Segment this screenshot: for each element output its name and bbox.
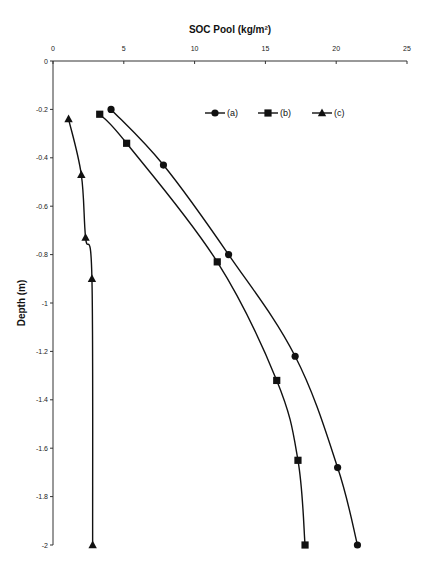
x-tick-label: 5	[122, 45, 126, 52]
data-point-square	[273, 377, 280, 384]
series-square	[96, 111, 309, 549]
data-point-circle	[292, 353, 299, 360]
data-point-circle	[354, 541, 361, 548]
x-tick-label: 25	[403, 45, 411, 52]
data-point-triangle	[88, 541, 96, 549]
series-line	[111, 109, 357, 545]
data-point-triangle	[81, 233, 89, 241]
y-axis-title: Depth (m)	[16, 280, 27, 327]
data-point-circle	[107, 106, 114, 113]
legend-label: (c)	[334, 108, 345, 118]
data-point-circle	[334, 464, 341, 471]
x-axis-title: SOC Pool (kg/m²)	[189, 24, 271, 35]
data-point-square	[214, 258, 221, 265]
data-point-square	[96, 111, 103, 118]
y-tick-label: -1.6	[36, 445, 48, 452]
data-point-triangle	[64, 115, 72, 123]
legend-item: (c)	[312, 108, 345, 118]
data-point-circle	[160, 161, 167, 168]
legend-marker-circle	[211, 109, 218, 116]
y-tick-label: -1.8	[36, 493, 48, 500]
data-point-square	[123, 140, 130, 147]
y-tick-label: -0.8	[36, 251, 48, 258]
x-tick-label: 15	[262, 45, 270, 52]
y-tick-label: -2	[42, 542, 48, 549]
y-ticks: 0-0.2-0.4-0.6-0.8-1-1.2-1.4-1.6-1.8-2	[36, 58, 53, 549]
legend-label: (b)	[280, 108, 291, 118]
data-point-circle	[225, 251, 232, 258]
data-point-square	[294, 457, 301, 464]
legend: (a)(b)(c)	[205, 108, 345, 118]
x-tick-label: 0	[51, 45, 55, 52]
data-point-square	[301, 541, 308, 548]
chart: SOC Pool (kg/m²) Depth (m) 0510152025 0-…	[0, 0, 432, 574]
series-circle	[107, 106, 361, 549]
data-point-triangle	[77, 170, 85, 178]
y-tick-label: -1.2	[36, 348, 48, 355]
legend-item: (a)	[205, 108, 238, 118]
y-tick-label: -0.4	[36, 154, 48, 161]
legend-item: (b)	[258, 108, 291, 118]
x-tick-label: 20	[332, 45, 340, 52]
legend-marker-square	[264, 109, 271, 116]
data-point-triangle	[88, 274, 96, 282]
series-group	[64, 106, 361, 549]
y-tick-label: -1	[42, 300, 48, 307]
x-tick-label: 10	[191, 45, 199, 52]
y-tick-label: -0.2	[36, 106, 48, 113]
series-line	[100, 114, 305, 545]
y-tick-label: -1.4	[36, 396, 48, 403]
series-triangle	[64, 115, 96, 549]
y-tick-label: 0	[44, 58, 48, 65]
legend-label: (a)	[227, 108, 238, 118]
series-line	[69, 119, 93, 545]
y-tick-label: -0.6	[36, 203, 48, 210]
